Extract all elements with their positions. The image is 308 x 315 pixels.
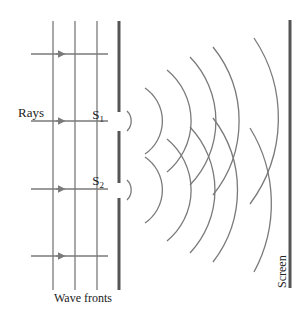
wave-fronts-label: Wave fronts xyxy=(54,291,112,305)
slit2-label: S2 xyxy=(92,173,104,190)
slit1-label: S1 xyxy=(92,107,104,124)
screen-label: Screen xyxy=(275,255,289,288)
arc xyxy=(167,70,191,172)
slit1-wavefronts xyxy=(127,38,278,204)
double-slit-diagram: Rays S1 S2 Wave fronts Screen xyxy=(0,0,308,315)
rays-label: Rays xyxy=(18,105,44,120)
arc xyxy=(250,38,278,204)
incident-wave-fronts xyxy=(53,21,97,290)
arc xyxy=(127,111,131,131)
slit2-wavefronts xyxy=(127,118,271,272)
arc xyxy=(167,139,191,241)
arc xyxy=(127,180,131,200)
arc xyxy=(145,157,162,223)
arc xyxy=(190,127,215,253)
arc xyxy=(145,88,162,154)
arc xyxy=(213,47,239,195)
